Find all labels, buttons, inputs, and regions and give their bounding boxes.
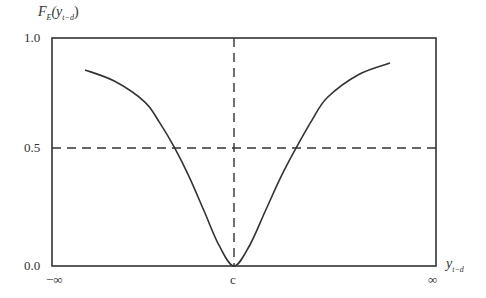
y-axis-label: FE(yt−d): [38, 4, 79, 22]
x-tick-infinity: ∞: [428, 272, 437, 288]
transition-curve: [85, 63, 390, 266]
y-tick-0-0: 0.0: [24, 258, 40, 274]
x-tick-neg-infinity: −∞: [46, 272, 63, 288]
y-tick-1-0: 1.0: [24, 30, 40, 46]
y-tick-0-5: 0.5: [24, 140, 40, 156]
x-tick-c: c: [230, 272, 236, 288]
chart-canvas: [0, 0, 486, 298]
x-axis-label: yt−d: [446, 256, 464, 274]
plot-frame: [52, 38, 436, 266]
